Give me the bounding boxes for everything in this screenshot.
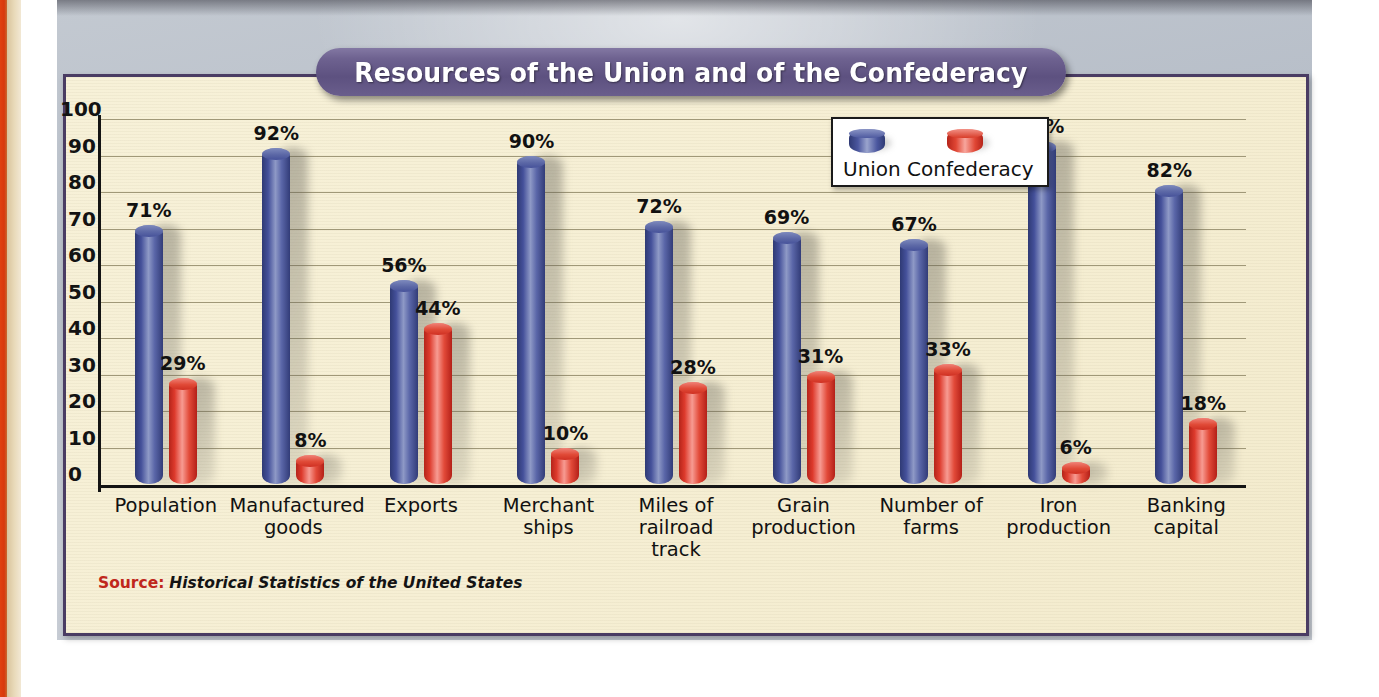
bar-cylinder: [390, 280, 418, 484]
bar-union[interactable]: 90%: [517, 156, 545, 485]
bar-cylinder: [262, 148, 290, 484]
x-category-label: Miles of railroad track: [612, 495, 740, 560]
legend-swatch-union-wrap: [845, 127, 891, 155]
bar-value-label: 67%: [891, 213, 936, 235]
bar-cylinder: [807, 371, 835, 484]
bar-cylinder-cap: [773, 232, 801, 244]
x-category-label: Merchant ships: [485, 495, 613, 539]
x-axis-category-labels: PopulationManufactured goodsExportsMerch…: [98, 495, 1246, 557]
y-tick-label-60: 60: [68, 243, 102, 267]
chart-legend: Union Confederacy: [831, 117, 1049, 187]
bar-cylinder: [296, 455, 324, 484]
bar-confederacy[interactable]: 29%: [169, 378, 197, 484]
bar-value-label: 71%: [126, 199, 171, 221]
bar-value-label: 31%: [798, 345, 843, 367]
bar-confederacy[interactable]: 31%: [807, 371, 835, 484]
bar-union[interactable]: 82%: [1155, 185, 1183, 484]
y-tick-label-40: 40: [68, 316, 102, 340]
x-category-label: Exports: [357, 495, 485, 517]
x-category-label: Number of farms: [867, 495, 995, 539]
bar-confederacy[interactable]: 33%: [934, 364, 962, 484]
bar-value-label: 56%: [381, 254, 426, 276]
bar-cylinder: [773, 232, 801, 484]
bar-cylinder-cap: [645, 221, 673, 233]
bar-cylinder-cap: [169, 378, 197, 390]
bar-cylinder-cap: [390, 280, 418, 292]
textbook-page: Resources of the Union and of the Confed…: [0, 0, 1379, 697]
legend-swatch-confederacy: [947, 129, 983, 153]
bar-cylinder-cap: [262, 148, 290, 160]
source-text: Historical Statistics of the United Stat…: [169, 574, 522, 592]
bar-cylinder: [551, 448, 579, 485]
bar-union[interactable]: 94%: [1028, 141, 1056, 484]
x-category-label: Population: [102, 495, 230, 517]
y-tick-label-50: 50: [68, 280, 102, 304]
bar-cylinder: [517, 156, 545, 485]
bar-cylinder: [900, 239, 928, 484]
bar-cylinder: [645, 221, 673, 484]
page-title: Resources of the Union and of the Confed…: [354, 57, 1027, 88]
legend-swatch-confederacy-wrap: [943, 127, 989, 155]
bar-confederacy[interactable]: 18%: [1189, 418, 1217, 484]
y-tick-label-90: 90: [68, 134, 102, 158]
x-category-label: Banking capital: [1122, 495, 1250, 539]
bar-value-label: 6%: [1060, 436, 1092, 458]
bar-value-label: 10%: [543, 422, 588, 444]
y-tick-label-100: 100: [60, 97, 102, 121]
chart-title-banner: Resources of the Union and of the Confed…: [316, 48, 1066, 96]
bar-confederacy[interactable]: 28%: [679, 382, 707, 484]
bar-union[interactable]: 92%: [262, 148, 290, 484]
y-tick-label-30: 30: [68, 353, 102, 377]
source-label: Source:: [98, 574, 164, 592]
chart-container: 1009080706050403020100 71%29%92%8%56%44%…: [63, 74, 1309, 636]
bar-cylinder-cap: [517, 156, 545, 168]
bar-cylinder-cap: [296, 455, 324, 467]
plot-area: 1009080706050403020100 71%29%92%8%56%44%…: [98, 119, 1246, 488]
y-tick-label-0: 0: [68, 462, 102, 486]
bar-value-label: 82%: [1146, 159, 1191, 181]
y-tick-label-80: 80: [68, 170, 102, 194]
legend-swatch-union: [849, 129, 885, 153]
bar-series-group: 71%29%92%8%56%44%90%10%72%28%69%31%67%33…: [98, 119, 1246, 488]
legend-label-union: Union: [843, 157, 901, 181]
bar-value-label: 72%: [636, 195, 681, 217]
bar-confederacy[interactable]: 10%: [551, 448, 579, 485]
bar-union[interactable]: 71%: [135, 225, 163, 484]
x-category-label: Manufactured goods: [230, 495, 358, 539]
y-tick-label-70: 70: [68, 207, 102, 231]
y-tick-label-20: 20: [68, 389, 102, 413]
bar-value-label: 18%: [1180, 392, 1225, 414]
bar-value-label: 69%: [764, 206, 809, 228]
bar-value-label: 28%: [670, 356, 715, 378]
bar-confederacy[interactable]: 8%: [296, 455, 324, 484]
bar-union[interactable]: 67%: [900, 239, 928, 484]
bar-cylinder-cap: [424, 323, 452, 335]
bar-value-label: 29%: [160, 352, 205, 374]
page-edge-tan-strip: [7, 0, 21, 697]
x-category-label: Iron production: [995, 495, 1123, 539]
bar-confederacy[interactable]: 6%: [1062, 462, 1090, 484]
bar-cylinder-cap: [934, 364, 962, 376]
bar-cylinder-cap: [679, 382, 707, 394]
bar-cylinder: [934, 364, 962, 484]
bar-cylinder-cap: [1155, 185, 1183, 197]
bar-value-label: 44%: [415, 297, 460, 319]
bar-union[interactable]: 72%: [645, 221, 673, 484]
bar-value-label: 33%: [925, 338, 970, 360]
legend-label-confederacy: Confederacy: [907, 157, 1034, 181]
bar-union[interactable]: 56%: [390, 280, 418, 484]
y-tick-label-10: 10: [68, 426, 102, 450]
bar-union[interactable]: 69%: [773, 232, 801, 484]
bar-cylinder-cap: [900, 239, 928, 251]
bar-confederacy[interactable]: 44%: [424, 323, 452, 484]
page-margin-white: [21, 0, 57, 697]
bar-value-label: 90%: [509, 130, 554, 152]
bar-cylinder: [1028, 141, 1056, 484]
bar-cylinder: [135, 225, 163, 484]
bar-cylinder-cap: [1062, 462, 1090, 474]
page-edge-orange-strip: [0, 0, 7, 697]
bar-value-label: 8%: [294, 429, 326, 451]
bar-cylinder: [169, 378, 197, 484]
bar-cylinder: [1155, 185, 1183, 484]
page-top-shadow: [57, 0, 1312, 16]
